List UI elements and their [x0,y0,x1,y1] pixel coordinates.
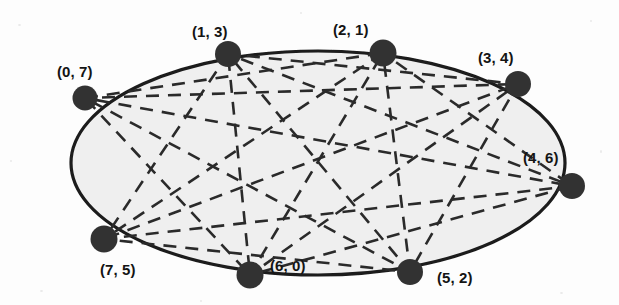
node-label: (2, 1) [333,22,369,37]
node-label: (7, 5) [100,262,136,277]
scan-speck [40,290,43,292]
node-label: (5, 2) [437,270,473,285]
scan-speck [560,292,563,294]
scan-speck [18,24,21,26]
scan-speck [10,160,12,162]
node-label: (4, 6) [523,150,559,165]
node-label: (1, 3) [192,24,228,39]
scan-speck [590,20,592,22]
graph-node [559,173,585,199]
node-label: (0, 7) [57,64,93,79]
graph-node [215,41,241,67]
graph-node [505,71,531,97]
graph-node [397,259,423,285]
node-label: (3, 4) [478,50,514,65]
graph-figure: (0, 7)(1, 3)(2, 1)(3, 4)(4, 6)(5, 2)(6, … [0,0,619,305]
scan-speck [600,150,602,153]
scan-speck [300,12,302,14]
graph-node [237,262,264,289]
graph-node [73,86,98,111]
scan-speck [200,300,202,302]
graph-node [370,40,397,67]
graph-node [91,226,118,253]
node-label: (6, 0) [270,258,306,273]
